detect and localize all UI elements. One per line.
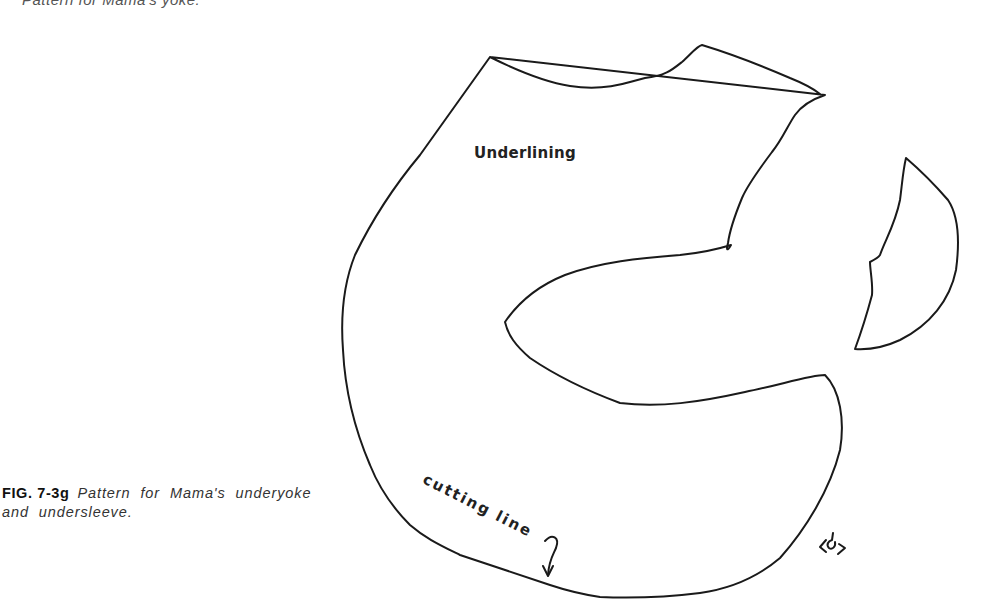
undersleeve-outline: [855, 158, 958, 349]
underlining-label: Underlining: [474, 144, 576, 162]
signature-icon: [820, 533, 845, 554]
figure-caption: FIG. 7-3gPattern for Mama's underyoke an…: [2, 484, 342, 522]
figure-number: FIG. 7-3g: [2, 485, 69, 501]
underyoke-outline: [342, 45, 842, 598]
